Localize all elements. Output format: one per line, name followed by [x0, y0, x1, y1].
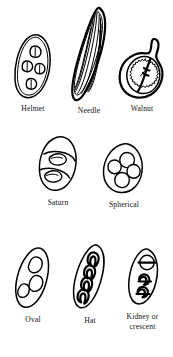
- figure-label-walnut: Walnut: [131, 104, 154, 114]
- figure-row-3: Oval Hat: [0, 240, 173, 357]
- needle-figure-icon: [63, 4, 115, 104]
- figure-label-hat: Hat: [84, 316, 95, 326]
- hat-figure-icon: [65, 242, 115, 314]
- figure-label-oval: Oval: [25, 315, 40, 325]
- figure-label-needle: Needle: [78, 106, 100, 116]
- figure-cell-needle: Needle: [58, 4, 120, 116]
- figure-label-saturn: Saturn: [48, 198, 69, 208]
- figure-row-1: Helmet Needle: [0, 0, 173, 130]
- figure-row-2: Saturn Spherical: [0, 130, 173, 240]
- figure-cell-helmet: Helmet: [2, 30, 64, 114]
- saturn-figure-icon: [32, 134, 84, 196]
- helmet-figure-icon: [8, 30, 58, 102]
- figure-label-kidney: Kidney or crescent: [127, 312, 159, 331]
- figure-cell-walnut: Walnut: [112, 36, 172, 114]
- walnut-figure-icon: [114, 36, 170, 102]
- figure-cell-hat: Hat: [60, 242, 120, 326]
- spherical-figure-icon: [97, 140, 151, 198]
- figure-cell-spherical: Spherical: [92, 140, 156, 210]
- figure-label-helmet: Helmet: [21, 104, 44, 114]
- figure-cell-kidney: Kidney or crescent: [112, 246, 173, 331]
- oval-figure-icon: [7, 245, 59, 313]
- kidney-figure-icon: [118, 246, 168, 310]
- figure-cell-saturn: Saturn: [28, 134, 88, 208]
- crystal-shape-plate: Helmet Needle: [0, 0, 173, 357]
- figure-cell-oval: Oval: [2, 245, 64, 325]
- figure-label-spherical: Spherical: [109, 200, 139, 210]
